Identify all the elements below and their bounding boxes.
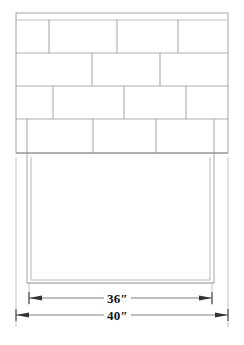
brick-panel-outline <box>16 13 228 153</box>
arrowhead-outer-left <box>16 312 29 317</box>
dimension-label-outer-width: 40″ <box>104 309 131 322</box>
arrowhead-inner-left <box>29 295 42 300</box>
brick-coursing-panel <box>16 13 228 153</box>
arrowhead-outer-right <box>215 312 228 317</box>
dimension-label-inner-width: 36″ <box>104 292 131 305</box>
firebox-opening <box>27 153 214 283</box>
technical-drawing-canvas: 36″ 40″ <box>0 0 244 345</box>
arrowhead-inner-right <box>199 295 212 300</box>
